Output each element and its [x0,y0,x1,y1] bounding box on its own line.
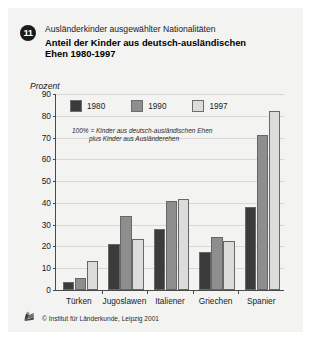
x-axis-tick-mark [193,290,194,294]
plot-area: 0102030405060708090 198019901997 100% = … [55,94,284,291]
page-title: Anteil der Kinder aus deutsch-ausländisc… [45,37,292,61]
bar-spanier-1980[interactable] [245,207,256,290]
y-axis-tick-label: 60 [42,154,51,164]
bar-griechen-1997[interactable] [223,241,234,290]
institute-logo-icon [23,309,36,327]
title-block: Ausländerkinder ausgewählter Nationalitä… [45,24,292,60]
bars-group: TürkenJugoslawenItalienerGriechenSpanier [56,94,284,290]
bar-group-jugoslawen: Jugoslawen [102,94,148,290]
title-line-1: Anteil der Kinder aus deutsch-ausländisc… [45,37,246,48]
bar-italiener-1980[interactable] [154,229,165,290]
x-axis-tick-mark [147,290,148,294]
bar-griechen-1990[interactable] [211,237,222,290]
source-text: © Institut für Länderkunde, Leipzig 2001 [42,315,159,322]
bar-italiener-1997[interactable] [178,199,189,290]
y-axis-tick-label: 50 [42,176,51,186]
x-axis-label-griechen: Griechen [199,296,233,306]
bar-spanier-1997[interactable] [269,111,280,290]
bar-group-griechen: Griechen [193,94,239,290]
y-axis-tick-mark [53,290,56,291]
y-axis-tick-label: 90 [42,89,51,99]
x-axis-tick-mark [102,290,103,294]
chart-header: 11 Ausländerkinder ausgewählter National… [20,24,292,60]
title-line-2: Ehen 1980-1997 [45,48,292,60]
bar-jugoslawen-1980[interactable] [108,244,119,290]
y-axis-tick-label: 10 [42,263,51,273]
bar-türken-1997[interactable] [87,261,98,290]
y-axis-tick-label: 20 [42,241,51,251]
figure-panel: 11 Ausländerkinder ausgewählter National… [8,8,303,332]
y-axis-tick-label: 30 [42,220,51,230]
bar-türken-1990[interactable] [75,278,86,290]
y-axis-tick-label: 70 [42,133,51,143]
x-axis-label-jugoslawen: Jugoslawen [102,296,146,306]
chart-subtitle: Ausländerkinder ausgewählter Nationalitä… [45,24,292,36]
y-axis-tick-label: 80 [42,111,51,121]
bar-italiener-1990[interactable] [166,201,177,290]
x-axis-label-spanier: Spanier [247,296,276,306]
x-axis-label-türken: Türken [66,296,92,306]
bar-griechen-1980[interactable] [199,252,210,290]
bar-spanier-1990[interactable] [257,135,268,290]
y-axis-tick-label: 0 [46,285,51,295]
bar-jugoslawen-1990[interactable] [120,216,131,290]
bar-jugoslawen-1997[interactable] [132,239,143,290]
bar-group-spanier: Spanier [238,94,284,290]
header-row: 11 Ausländerkinder ausgewählter National… [20,24,292,60]
figure-number-badge: 11 [20,25,36,41]
bar-group-italiener: Italiener [147,94,193,290]
y-axis-tick-label: 40 [42,198,51,208]
footer: © Institut für Länderkunde, Leipzig 2001 [23,309,159,327]
x-axis-tick-mark [238,290,239,294]
bar-türken-1980[interactable] [63,282,74,290]
bar-group-türken: Türken [56,94,102,290]
x-axis-label-italiener: Italiener [155,296,185,306]
